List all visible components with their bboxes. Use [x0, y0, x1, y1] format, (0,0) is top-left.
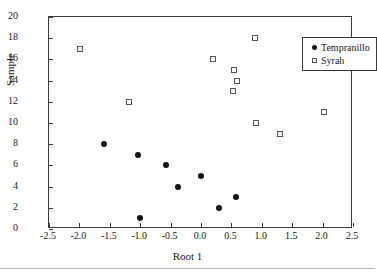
y-tick — [49, 123, 53, 124]
x-tick — [262, 223, 263, 227]
data-point-syrah — [253, 120, 259, 126]
data-point-tempranillo — [233, 194, 239, 200]
x-axis-title: Root 1 — [0, 250, 375, 262]
x-tick-label: 2.5 — [332, 231, 372, 241]
x-tick — [79, 223, 80, 227]
data-point-syrah — [252, 35, 258, 41]
y-tick — [49, 38, 53, 39]
y-tick — [49, 59, 53, 60]
x-tick — [49, 223, 50, 227]
legend-entry-tempranillo: Tempranillo — [307, 41, 370, 54]
data-point-syrah — [277, 131, 283, 137]
y-tick-label: 8 — [13, 138, 18, 148]
data-point-syrah — [210, 56, 216, 62]
y-tick-label: 2 — [13, 202, 18, 212]
y-tick-label: 12 — [8, 96, 18, 106]
data-point-tempranillo — [198, 173, 204, 179]
x-tick — [353, 223, 354, 227]
y-tick — [49, 81, 53, 82]
data-point-syrah — [234, 78, 240, 84]
y-tick — [49, 187, 53, 188]
data-point-tempranillo — [216, 205, 222, 211]
y-tick-label: 18 — [8, 32, 18, 42]
legend-entry-syrah: Syrah — [307, 54, 370, 67]
data-point-tempranillo — [175, 184, 181, 190]
y-tick-label: 10 — [8, 117, 18, 127]
footer-divider — [0, 268, 375, 269]
data-point-syrah — [126, 99, 132, 105]
y-tick-label: 16 — [8, 53, 18, 63]
filled-circle-icon — [307, 45, 321, 50]
x-tick — [323, 223, 324, 227]
x-tick — [231, 223, 232, 227]
y-tick — [49, 165, 53, 166]
legend: Tempranillo Syrah — [302, 37, 377, 71]
plot-area: Tempranillo Syrah — [48, 16, 352, 228]
x-tick — [110, 223, 111, 227]
y-tick — [49, 17, 53, 18]
y-tick-label: 20 — [8, 11, 18, 21]
y-tick — [49, 208, 53, 209]
legend-label: Tempranillo — [321, 43, 370, 53]
data-point-syrah — [321, 109, 327, 115]
data-point-tempranillo — [137, 215, 143, 221]
data-point-syrah — [230, 88, 236, 94]
y-tick-label: 6 — [13, 159, 18, 169]
y-tick-label: 0 — [13, 223, 18, 233]
x-tick — [140, 223, 141, 227]
legend-label: Syrah — [321, 56, 344, 66]
data-point-tempranillo — [135, 152, 141, 158]
y-tick-label: 14 — [8, 75, 18, 85]
x-tick — [171, 223, 172, 227]
y-tick-label: 4 — [13, 181, 18, 191]
x-tick — [292, 223, 293, 227]
data-point-syrah — [231, 67, 237, 73]
open-square-icon — [307, 58, 321, 63]
data-point-tempranillo — [163, 162, 169, 168]
data-point-syrah — [77, 46, 83, 52]
data-point-tempranillo — [101, 141, 107, 147]
y-tick — [49, 144, 53, 145]
x-tick — [201, 223, 202, 227]
y-tick — [49, 102, 53, 103]
